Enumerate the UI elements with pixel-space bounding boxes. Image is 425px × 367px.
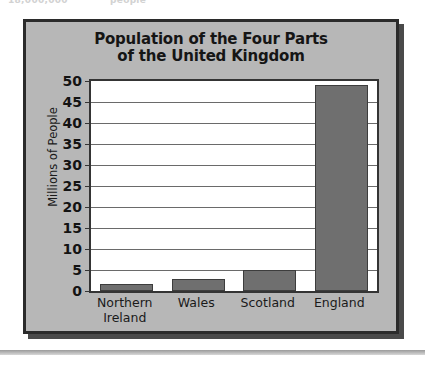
chart-title-line-2: of the United Kingdom	[26, 48, 396, 65]
x-axis-labels: NorthernIrelandWalesScotlandEngland	[89, 295, 379, 333]
x-label-line: Northern	[89, 295, 161, 310]
x-label-line: Ireland	[89, 310, 161, 325]
bar-series	[91, 81, 377, 291]
y-tick-label: 10	[63, 241, 82, 257]
x-label-wales: Wales	[161, 295, 233, 310]
y-tick-mark	[85, 291, 91, 292]
chart-title: Population of the Four Parts of the Unit…	[26, 31, 396, 65]
x-label-line: England	[304, 295, 376, 310]
y-tick-label: 20	[63, 199, 82, 215]
x-label-line: Wales	[161, 295, 233, 310]
x-label-scotland: Scotland	[232, 295, 304, 310]
y-tick-label: 50	[63, 73, 82, 89]
bar-scotland	[243, 270, 296, 291]
y-tick-label: 45	[63, 94, 82, 110]
clipped-top-text-right: people	[110, 0, 146, 5]
x-label-line: Scotland	[232, 295, 304, 310]
y-tick-label: 25	[63, 178, 82, 194]
bottom-divider	[0, 350, 425, 355]
bar-england	[315, 85, 368, 291]
y-tick-label: 30	[63, 157, 82, 173]
plot-area: 50454035302520151050	[89, 79, 379, 293]
clipped-top-text-left: 18,000,000	[8, 0, 68, 5]
y-tick-label: 0	[72, 283, 82, 299]
bar-wales	[172, 279, 225, 291]
y-tick-label: 35	[63, 136, 82, 152]
y-axis-title: Millions of People	[46, 92, 60, 222]
x-label-northern-ireland: NorthernIreland	[89, 295, 161, 325]
y-tick-label: 40	[63, 115, 82, 131]
bar-northern-ireland	[100, 284, 153, 291]
x-label-england: England	[304, 295, 376, 310]
clipped-top-text: 18,000,000 people	[0, 0, 425, 7]
chart-title-line-1: Population of the Four Parts	[26, 31, 396, 48]
chart-figure: Population of the Four Parts of the Unit…	[23, 19, 399, 334]
y-tick-label: 15	[63, 220, 82, 236]
y-tick-label: 5	[72, 262, 82, 278]
